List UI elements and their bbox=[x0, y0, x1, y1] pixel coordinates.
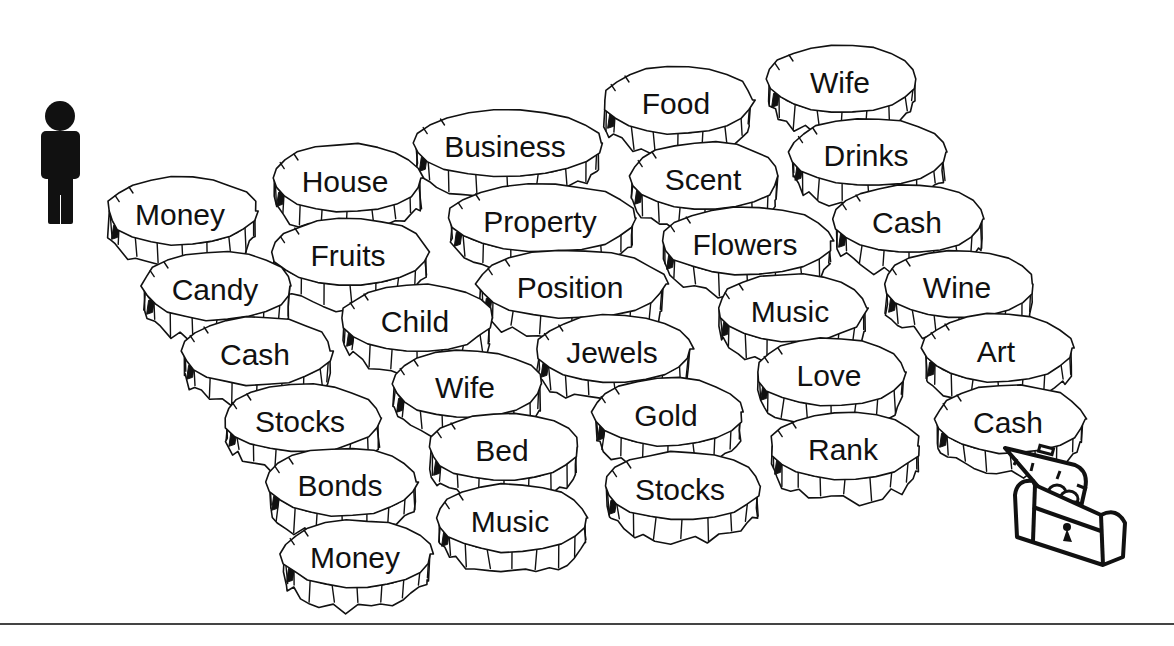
stone: Rank bbox=[771, 412, 919, 506]
stone-label: Cash bbox=[220, 338, 290, 371]
stone-label: Money bbox=[135, 198, 225, 231]
stone-label: Fruits bbox=[311, 239, 386, 272]
stone-label: Drinks bbox=[823, 139, 908, 172]
stone-label: Wife bbox=[810, 66, 870, 99]
stone-label: Art bbox=[977, 335, 1016, 368]
stone-label: Wine bbox=[923, 271, 991, 304]
stone-label: Music bbox=[471, 505, 549, 538]
stone-label: Food bbox=[642, 87, 710, 120]
stone-label: Property bbox=[483, 205, 596, 238]
stone-label: Candy bbox=[172, 273, 259, 306]
bottom-rule bbox=[0, 623, 1174, 625]
stone-label: Wife bbox=[435, 371, 495, 404]
stone: Money bbox=[280, 520, 434, 614]
stone-label: Gold bbox=[634, 399, 697, 432]
stone-label: Scent bbox=[665, 163, 742, 196]
stone: Music bbox=[437, 484, 588, 572]
stone-label: Bonds bbox=[297, 469, 382, 502]
stone-label: Cash bbox=[872, 206, 942, 239]
stone-label: Position bbox=[517, 271, 624, 304]
stone-label: Stocks bbox=[635, 473, 725, 506]
stone-label: Music bbox=[751, 295, 829, 328]
stone-label: Love bbox=[796, 359, 861, 392]
stone-label: Jewels bbox=[566, 336, 658, 369]
stone: Stocks bbox=[606, 451, 761, 544]
stone-label: House bbox=[302, 165, 389, 198]
stone-label: Child bbox=[381, 305, 449, 338]
stones-layer: WifeFoodBusinessDrinksHouseScentMoneyPro… bbox=[108, 45, 1087, 614]
treasure-chest-icon bbox=[1005, 445, 1125, 565]
stone-label: Cash bbox=[973, 406, 1043, 439]
stone-label: Money bbox=[310, 541, 400, 574]
stone-label: Flowers bbox=[692, 228, 797, 261]
person-icon bbox=[41, 101, 80, 224]
stone-label: Rank bbox=[808, 433, 879, 466]
stone-label: Bed bbox=[475, 434, 528, 467]
stone-label: Stocks bbox=[255, 405, 345, 438]
stepping-stones-diagram: WifeFoodBusinessDrinksHouseScentMoneyPro… bbox=[0, 0, 1174, 646]
stone-label: Business bbox=[444, 130, 566, 163]
